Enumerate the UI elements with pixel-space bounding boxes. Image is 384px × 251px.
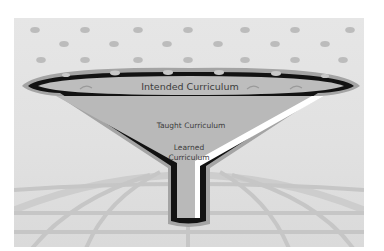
rim-bead (214, 70, 224, 75)
learned-curriculum-label-line1: Learned (174, 143, 205, 152)
background-dot (109, 41, 119, 47)
background-dot (133, 57, 143, 63)
background-dot (30, 27, 40, 33)
background-dot (240, 27, 250, 33)
rim-bead (271, 71, 281, 76)
background-dot (36, 57, 46, 63)
background-dot (59, 41, 69, 47)
background-dot (162, 41, 172, 47)
background-dot (338, 57, 348, 63)
intended-curriculum-label: Intended Curriculum (141, 81, 238, 92)
background-dot (240, 57, 250, 63)
background-dot (80, 27, 90, 33)
learned-curriculum-label-line2: Curriculum (168, 153, 209, 162)
taught-curriculum-label: Taught Curriculum (156, 121, 226, 130)
rim-bead (321, 74, 329, 78)
background-dot (290, 27, 300, 33)
background-dot (270, 41, 280, 47)
background-dot (345, 27, 355, 33)
background-dot (213, 41, 223, 47)
background-dot (133, 27, 143, 33)
background-dot (290, 57, 300, 63)
background-dot (183, 57, 193, 63)
rim-bead (110, 71, 120, 76)
background-dot (320, 41, 330, 47)
background-dot (183, 27, 193, 33)
curriculum-funnel-diagram: Intended Curriculum Taught Curriculum Le… (0, 0, 384, 251)
rim-bead (62, 73, 70, 77)
rim-bead (163, 70, 173, 75)
background-dot (80, 57, 90, 63)
